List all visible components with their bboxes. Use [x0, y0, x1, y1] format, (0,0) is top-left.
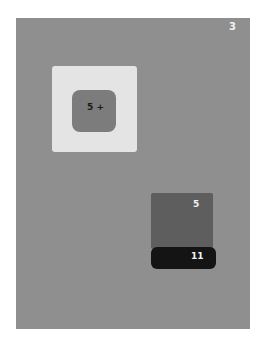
dark-gray-swatch-label: 5 [193, 199, 199, 209]
inner-square-label: 5 + [87, 102, 104, 112]
dark-gray-swatch [151, 193, 213, 249]
black-swatch-label: 11 [191, 251, 204, 261]
page-number: 3 [229, 21, 236, 32]
gray-background-panel [16, 18, 250, 329]
black-swatch [151, 247, 216, 269]
